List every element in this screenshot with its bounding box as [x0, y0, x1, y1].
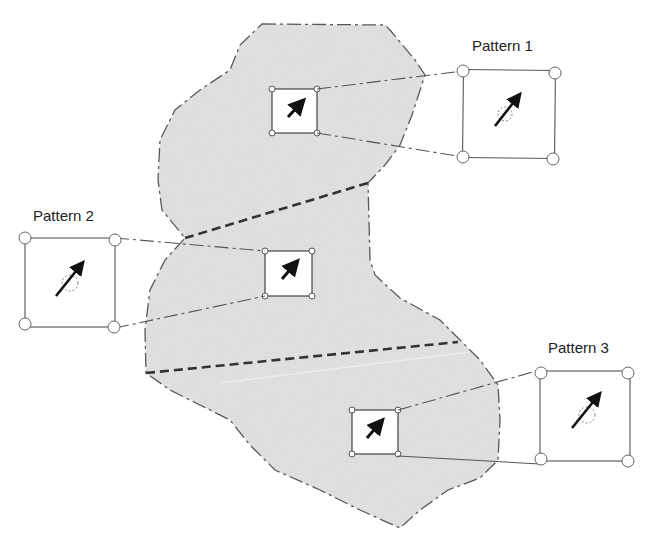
region-blob — [145, 24, 500, 528]
pattern-2-label: Pattern 2 — [33, 207, 94, 224]
pattern-1-label: Pattern 1 — [472, 37, 533, 54]
pattern-3-label: Pattern 3 — [548, 339, 609, 356]
pattern-diagram — [0, 0, 648, 544]
